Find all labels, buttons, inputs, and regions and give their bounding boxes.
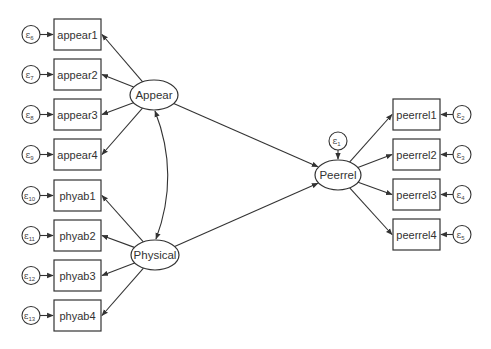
latent-label: Peerrel: [319, 169, 356, 181]
observed-variable-peerrel3: peerrel3: [393, 179, 440, 210]
error-term-peerrel: ε1: [329, 132, 347, 150]
observed-label: appear2: [57, 69, 97, 81]
loading-arrow-phyab2: [102, 236, 134, 248]
loading-arrow-peerrel3: [358, 182, 392, 194]
covariance-arrow-appear-physical: [155, 111, 168, 239]
observed-label: peerrel3: [396, 189, 436, 201]
observed-variable-appear4: appear4: [54, 139, 101, 170]
error-term-phyab4: ε13: [22, 307, 40, 325]
loading-arrow-phyab3: [102, 263, 135, 276]
observed-label: phyab3: [59, 270, 95, 282]
observed-variable-phyab3: phyab3: [54, 260, 101, 291]
observed-variable-peerrel2: peerrel2: [393, 139, 440, 170]
loading-arrow-peerrel2: [358, 155, 392, 168]
path-arrow-physical-to-peerrel: [175, 183, 318, 246]
sem-path-diagram: ε6ε7ε8ε9ε10ε11ε12ε13ε2ε3ε4ε5ε1appear1app…: [0, 0, 491, 349]
latent-label: Physical: [134, 249, 177, 261]
nodes-layer: ε6ε7ε8ε9ε10ε11ε12ε13ε2ε3ε4ε5ε1appear1app…: [22, 19, 471, 331]
observed-variable-appear2: appear2: [54, 59, 101, 90]
error-term-appear2: ε7: [22, 66, 40, 84]
error-subscript: 13: [28, 316, 35, 322]
loading-arrow-appear1: [102, 35, 143, 82]
observed-label: peerrel4: [396, 229, 436, 241]
error-subscript: 11: [29, 236, 36, 242]
error-term-peerrel1: ε2: [453, 106, 471, 124]
error-term-peerrel4: ε5: [453, 226, 471, 244]
error-term-appear3: ε8: [22, 106, 40, 124]
observed-label: appear4: [57, 149, 97, 161]
observed-label: peerrel2: [396, 149, 436, 161]
loading-arrow-appear3: [102, 103, 133, 115]
latent-variable-peerrel: Peerrel: [315, 160, 361, 190]
observed-label: peerrel1: [396, 109, 436, 121]
loading-arrow-phyab4: [102, 268, 143, 315]
observed-label: appear1: [57, 29, 97, 41]
error-term-phyab1: ε10: [22, 187, 40, 205]
error-term-peerrel2: ε3: [453, 146, 471, 164]
loading-arrow-appear2: [102, 75, 134, 87]
latent-variable-physical: Physical: [131, 240, 179, 270]
error-subscript: 12: [28, 276, 35, 282]
observed-label: appear3: [57, 109, 97, 121]
latent-variable-appear: Appear: [130, 80, 178, 110]
observed-variable-peerrel1: peerrel1: [393, 99, 440, 130]
error-term-appear4: ε9: [22, 146, 40, 164]
loading-arrow-peerrel4: [350, 188, 392, 235]
observed-variable-phyab4: phyab4: [54, 300, 101, 331]
observed-variable-peerrel4: peerrel4: [393, 219, 440, 250]
error-subscript: 10: [28, 196, 35, 202]
observed-variable-appear1: appear1: [54, 19, 101, 50]
observed-label: phyab4: [59, 310, 95, 322]
loading-arrow-appear4: [102, 108, 142, 154]
loading-arrow-peerrel1: [350, 115, 392, 163]
observed-variable-appear3: appear3: [54, 99, 101, 130]
error-term-phyab2: ε11: [22, 227, 40, 245]
latent-label: Appear: [135, 89, 172, 101]
loading-arrow-phyab1: [102, 196, 143, 242]
observed-label: phyab1: [59, 190, 95, 202]
observed-variable-phyab1: phyab1: [54, 180, 101, 211]
edges-layer: [40, 35, 453, 316]
observed-variable-phyab2: phyab2: [54, 220, 101, 251]
observed-label: phyab2: [59, 230, 95, 242]
error-term-appear1: ε6: [22, 26, 40, 44]
error-term-peerrel3: ε4: [453, 186, 471, 204]
path-arrow-appear-to-peerrel: [174, 104, 318, 167]
error-term-phyab3: ε12: [22, 267, 40, 285]
